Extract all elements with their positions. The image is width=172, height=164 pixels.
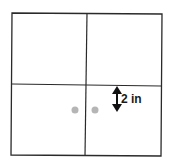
quadrant-diagram	[0, 0, 172, 164]
dot-right	[92, 107, 99, 114]
dot-left	[72, 107, 79, 114]
dimension-label: 2 in	[121, 92, 142, 106]
